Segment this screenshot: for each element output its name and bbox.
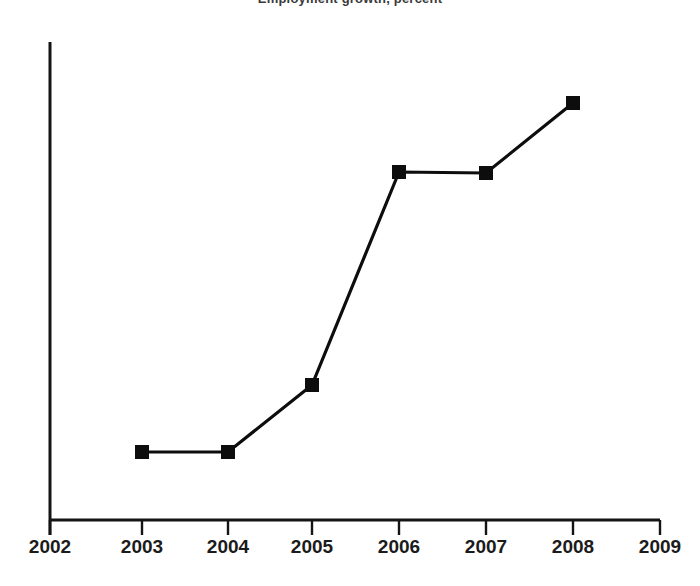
data-point-2007 — [480, 167, 493, 180]
line-chart: Employment growth, percent 2002200320042… — [0, 0, 700, 586]
x-tick-label-2006: 2006 — [378, 537, 420, 556]
x-tick-label-2007: 2007 — [465, 537, 507, 556]
x-tick-label-2009: 2009 — [639, 537, 681, 556]
x-tick-label-2003: 2003 — [121, 537, 163, 556]
data-point-2003 — [136, 446, 149, 459]
data-point-2008 — [567, 97, 580, 110]
series-line-group — [142, 103, 573, 452]
data-point-2004 — [222, 446, 235, 459]
data-point-2005 — [306, 379, 319, 392]
x-tick-label-2005: 2005 — [291, 537, 333, 556]
x-tick-label-2004: 2004 — [207, 537, 249, 556]
axes — [50, 42, 660, 535]
x-tick-label-2002: 2002 — [29, 537, 71, 556]
plot-area — [0, 0, 700, 586]
data-point-2006 — [393, 166, 406, 179]
tick-marks — [50, 520, 660, 535]
series-line — [142, 103, 573, 452]
x-tick-label-2008: 2008 — [552, 537, 594, 556]
